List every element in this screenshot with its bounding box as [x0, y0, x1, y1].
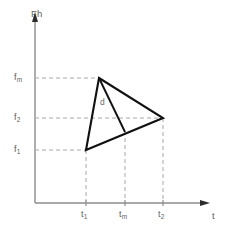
- x-tick-t2-sub: 2: [161, 213, 165, 220]
- x-tick-label-tm: tm: [119, 209, 127, 219]
- segment-d-label: d: [100, 97, 105, 107]
- y-axis-label: Fh: [31, 8, 43, 19]
- x-tick-label-t2: t2: [158, 209, 164, 219]
- y-tick-fm-sub: m: [17, 76, 23, 83]
- horizontal-guide-lines: [35, 78, 163, 150]
- plot-canvas: [0, 0, 244, 233]
- y-tick-label-fm: fm: [14, 72, 22, 82]
- y-tick-f1-sub: 1: [17, 148, 21, 155]
- x-tick-tm-sub: m: [122, 213, 128, 220]
- x-axis-label: t: [212, 210, 215, 221]
- x-axis-arrowhead: [200, 200, 210, 206]
- y-tick-label-f1: f1: [14, 144, 20, 154]
- y-tick-label-f2: f2: [14, 112, 20, 122]
- y-tick-f2-sub: 2: [17, 116, 21, 123]
- axis-group: [32, 12, 210, 206]
- x-tick-t1-sub: 1: [84, 213, 88, 220]
- x-tick-label-t1: t1: [81, 209, 87, 219]
- figure-container: Fh t fm f2 f1 t1 tm t2 d: [0, 0, 244, 233]
